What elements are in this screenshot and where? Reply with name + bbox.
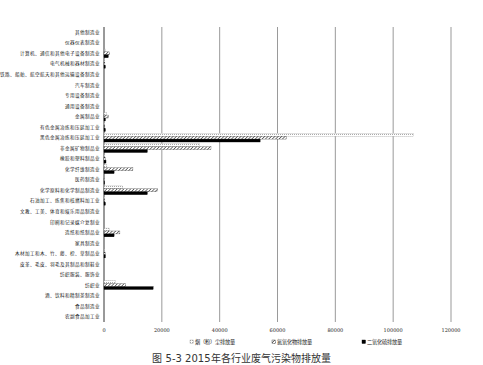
category-label: 酒、饮料和精制茶制造业: [45, 292, 100, 299]
category-label: 有色金属冶炼和压延加工业: [40, 124, 100, 131]
bar-dust: [104, 59, 105, 62]
bar-nox: [104, 115, 108, 118]
category-label: 非金属矿物制品业: [60, 145, 100, 152]
bar-dust: [104, 49, 105, 52]
bar-so2: [104, 255, 105, 258]
bar-dust: [104, 186, 123, 189]
bar-nox: [104, 199, 105, 202]
legend-swatch: [272, 340, 276, 344]
x-tick-label: 120000: [441, 327, 460, 333]
bar-so2: [104, 202, 105, 205]
category-label: 皮革、毛皮、羽毛及其制品和制鞋业: [20, 261, 100, 268]
category-label: 电气机械和器材制造业: [50, 60, 100, 67]
legend: 烟（粉）尘排放量氮氧化物排放量二氧化硫排放量: [190, 338, 402, 346]
category-label: 金属制品业: [75, 113, 100, 120]
bar-nox: [104, 157, 105, 160]
x-tick-label: 20000: [154, 327, 170, 333]
bar-so2: [104, 129, 105, 132]
bars: [104, 49, 413, 290]
category-label: 家具制造业: [75, 240, 100, 247]
bar-nox: [104, 62, 105, 65]
bar-nox: [104, 52, 110, 55]
category-label: 化学原料和化学制品制造业: [40, 187, 100, 194]
category-label: 其他制造业: [75, 29, 100, 36]
x-tick-label: 80000: [327, 327, 343, 333]
category-label: 文教、工美、体育和娱乐用品制造业: [20, 208, 100, 215]
category-label: 计算机、通信和其他电子设备制造业: [20, 50, 100, 57]
category-label: 医药制造业: [75, 176, 100, 183]
bar-dust: [104, 154, 105, 157]
bar-nox: [104, 284, 126, 287]
bar-nox: [104, 126, 105, 129]
category-label: 印刷和记录媒介复制业: [50, 219, 100, 226]
bar-dust: [104, 196, 105, 199]
bar-nox: [104, 231, 120, 234]
bar-so2: [104, 65, 105, 68]
bar-dust: [104, 133, 413, 136]
bar-nox: [104, 252, 105, 255]
bar-so2: [104, 55, 108, 58]
bar-dust: [104, 228, 110, 231]
x-tick-label: 0: [102, 327, 105, 333]
bar-dust: [104, 281, 116, 284]
bar-nox: [104, 189, 157, 192]
category-label: 化学纤维制造业: [65, 166, 100, 173]
category-label: 橡胶和塑料制品业: [60, 155, 100, 162]
category-label: 专用设备制造业: [65, 92, 100, 99]
bar-nox: [104, 178, 105, 181]
bar-so2: [104, 150, 147, 153]
legend-swatch: [362, 340, 366, 344]
bar-so2: [104, 192, 147, 195]
bar-dust: [104, 165, 107, 168]
legend-label: 二氧化硫排放量: [367, 338, 402, 346]
category-labels: 其他制造业仪器仪表制造业计算机、通信和其他电子设备制造业电气机械和器材制造业铁路…: [0, 29, 100, 320]
legend-label: 烟（粉）尘排放量: [195, 338, 235, 346]
x-tick-label: 40000: [212, 327, 228, 333]
bar-so2: [104, 160, 106, 163]
category-label: 纺织服装、服饰业: [60, 271, 100, 278]
bar-so2: [104, 118, 105, 121]
category-label: 造纸和纸制品业: [65, 229, 100, 236]
category-label: 铁路、船舶、航空航天和其他运输设备制造业: [0, 71, 100, 78]
category-label: 汽车制造业: [75, 82, 100, 89]
bar-dust: [104, 144, 199, 147]
bar-so2: [104, 139, 260, 142]
legend-label: 氮氧化物排放量: [277, 338, 312, 346]
bar-nox: [104, 136, 286, 139]
bar-dust: [104, 249, 105, 252]
bar-nox: [104, 168, 133, 171]
category-label: 农副食品加工业: [65, 313, 100, 320]
bar-so2: [104, 171, 114, 174]
figure-caption: 图 5-3 2015年各行业废气污染物排放量: [0, 350, 483, 365]
bar-so2: [104, 234, 114, 237]
bar-dust: [104, 123, 105, 126]
x-tick-label: 100000: [384, 327, 403, 333]
x-tick-label: 60000: [270, 327, 286, 333]
bar-so2: [104, 181, 105, 184]
bar-so2: [104, 287, 153, 290]
category-label: 石油加工、炼焦和核燃料加工业: [30, 197, 100, 204]
bar-nox: [104, 147, 211, 150]
category-label: 黑色金属冶炼和压延加工业: [40, 134, 100, 141]
category-label: 仪器仪表制造业: [65, 39, 100, 46]
x-tick-labels: 020000400006000080000100000120000: [102, 327, 460, 333]
bar-dust: [104, 112, 106, 115]
category-label: 纺织业: [85, 282, 100, 289]
category-label: 食品制造业: [75, 303, 100, 310]
category-label: 通用设备制造业: [65, 103, 100, 110]
legend-swatch: [190, 340, 194, 344]
category-label: 木材加工和木、竹、藤、棕、草制品业: [15, 250, 100, 257]
bar-chart: 其他制造业仪器仪表制造业计算机、通信和其他电子设备制造业电气机械和器材制造业铁路…: [0, 0, 483, 350]
gridlines: [104, 27, 451, 322]
